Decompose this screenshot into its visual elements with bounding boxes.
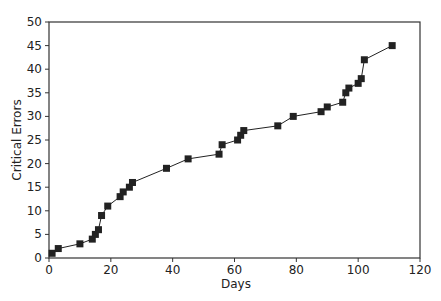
data-point-marker bbox=[216, 151, 223, 158]
x-tick-label: 60 bbox=[227, 263, 242, 277]
data-point-marker bbox=[129, 179, 136, 186]
data-point-marker bbox=[240, 127, 247, 134]
y-tick-label: 10 bbox=[27, 204, 42, 218]
x-tick-label: 20 bbox=[103, 263, 118, 277]
data-point-marker bbox=[120, 188, 127, 195]
y-tick-label: 45 bbox=[27, 39, 42, 53]
data-point-marker bbox=[95, 226, 102, 233]
y-tick-label: 50 bbox=[27, 15, 42, 29]
data-point-marker bbox=[185, 155, 192, 162]
data-point-marker bbox=[163, 165, 170, 172]
data-point-marker bbox=[98, 212, 105, 219]
x-tick-label: 0 bbox=[45, 263, 53, 277]
y-axis: 05101520253035404550 bbox=[27, 15, 49, 265]
y-tick-label: 20 bbox=[27, 157, 42, 171]
data-point-marker bbox=[104, 203, 111, 210]
data-point-marker bbox=[55, 245, 62, 252]
data-point-marker bbox=[345, 85, 352, 92]
x-axis: 020406080100120 bbox=[45, 258, 431, 277]
data-series bbox=[49, 42, 396, 257]
x-tick-label: 100 bbox=[347, 263, 370, 277]
data-point-marker bbox=[49, 250, 56, 257]
y-tick-label: 35 bbox=[27, 86, 42, 100]
data-point-marker bbox=[290, 113, 297, 120]
y-tick-label: 5 bbox=[34, 227, 42, 241]
series-line bbox=[52, 46, 392, 254]
y-tick-label: 0 bbox=[34, 251, 42, 265]
critical-errors-chart: 05101520253035404550 020406080100120 Day… bbox=[0, 0, 441, 301]
data-point-marker bbox=[324, 103, 331, 110]
data-point-marker bbox=[274, 122, 281, 129]
data-point-marker bbox=[389, 42, 396, 49]
y-tick-label: 30 bbox=[27, 109, 42, 123]
data-point-marker bbox=[318, 108, 325, 115]
x-tick-label: 40 bbox=[165, 263, 180, 277]
data-point-marker bbox=[361, 56, 368, 63]
data-point-marker bbox=[339, 99, 346, 106]
y-tick-label: 40 bbox=[27, 62, 42, 76]
data-point-marker bbox=[76, 240, 83, 247]
x-tick-label: 80 bbox=[289, 263, 304, 277]
y-axis-label: Critical Errors bbox=[10, 99, 24, 180]
data-point-marker bbox=[358, 75, 365, 82]
x-tick-label: 120 bbox=[409, 263, 432, 277]
x-axis-label: Days bbox=[221, 277, 251, 291]
y-tick-label: 15 bbox=[27, 180, 42, 194]
y-tick-label: 25 bbox=[27, 133, 42, 147]
data-point-marker bbox=[219, 141, 226, 148]
